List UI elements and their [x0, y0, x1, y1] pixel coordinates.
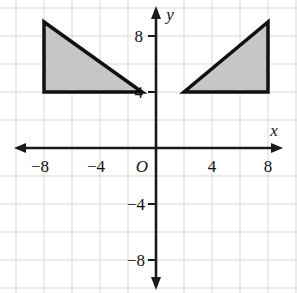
- x-tick-label-neg4: −4: [87, 157, 106, 176]
- coordinate-plane-svg: −8 −4 4 8 8 4 −4 −8 O x y: [0, 0, 297, 293]
- x-tick-label-pos4: 4: [208, 157, 217, 176]
- y-tick-label-pos4: 4: [135, 83, 144, 102]
- y-tick-label-neg4: −4: [127, 195, 146, 214]
- x-tick-label-pos8: 8: [264, 157, 273, 176]
- y-axis-label: y: [164, 5, 174, 24]
- origin-label: O: [136, 157, 148, 176]
- x-tick-label-neg8: −8: [31, 157, 49, 176]
- y-tick-label-neg8: −8: [127, 251, 145, 270]
- y-tick-label-pos8: 8: [135, 27, 144, 46]
- x-axis-label: x: [269, 121, 278, 140]
- coordinate-plane-figure: −8 −4 4 8 8 4 −4 −8 O x y: [0, 0, 297, 293]
